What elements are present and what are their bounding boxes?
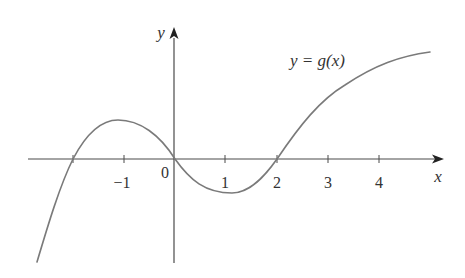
tick-label-2: 2 — [273, 174, 281, 191]
curve-g — [37, 52, 430, 262]
y-axis-arrow-icon — [170, 27, 179, 39]
tick-label-neg1: −1 — [113, 174, 130, 191]
x-axis-label: x — [433, 167, 442, 186]
function-label: y = g(x) — [288, 51, 345, 70]
y-axis-label: y — [155, 23, 165, 42]
tick-label-4: 4 — [375, 174, 383, 191]
tick-label-0: 0 — [161, 164, 169, 181]
tick-label-3: 3 — [324, 174, 332, 191]
tick-label-1: 1 — [221, 174, 229, 191]
graph: −1 0 1 2 3 4 x y y = g(x) — [0, 0, 465, 278]
